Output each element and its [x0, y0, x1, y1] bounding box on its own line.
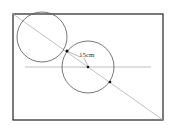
intersection-dot [109, 81, 112, 84]
circle-upper-left [17, 12, 67, 62]
diagram: 15cm [0, 0, 175, 133]
tangent-point-dot [66, 50, 69, 53]
center-dot [87, 66, 90, 69]
radius-label: 15cm [79, 51, 95, 59]
